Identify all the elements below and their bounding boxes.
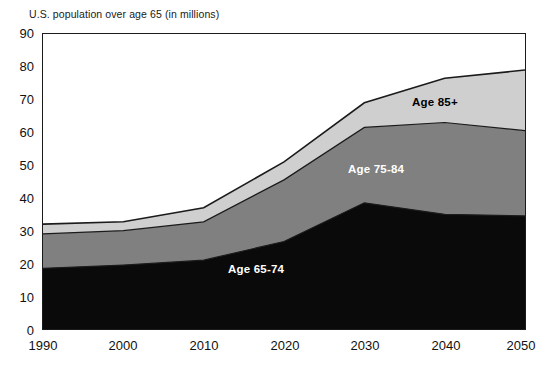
y-axis-tick: 90: [4, 26, 34, 41]
x-axis-tick: 2010: [176, 338, 232, 353]
y-axis-tick: 20: [4, 257, 34, 272]
chart-caption: U.S. population over age 65 (in millions…: [29, 8, 219, 20]
y-axis-tick: 10: [4, 290, 34, 305]
area-chart: U.S. population over age 65 (in millions…: [0, 0, 558, 371]
series-label-age-85-plus: Age 85+: [412, 96, 458, 108]
x-axis-tick: 2020: [257, 338, 313, 353]
x-axis-tick: 2050: [493, 338, 549, 353]
x-axis-tick: 2030: [337, 338, 393, 353]
series-label-age-65-74: Age 65-74: [228, 263, 284, 275]
x-axis-tick: 2040: [418, 338, 474, 353]
plot-area: [42, 33, 526, 330]
y-axis-tick: 60: [4, 125, 34, 140]
y-axis-tick: 50: [4, 158, 34, 173]
y-axis-tick: 40: [4, 191, 34, 206]
series-label-age-75-84: Age 75-84: [348, 163, 404, 175]
x-axis-tick: 1990: [15, 338, 71, 353]
y-axis-tick: 70: [4, 92, 34, 107]
y-axis-tick: 80: [4, 59, 34, 74]
x-axis-tick: 2000: [95, 338, 151, 353]
stacked-area-svg: [43, 34, 525, 329]
y-axis-tick: 30: [4, 224, 34, 239]
y-axis-tick: 0: [4, 323, 34, 338]
